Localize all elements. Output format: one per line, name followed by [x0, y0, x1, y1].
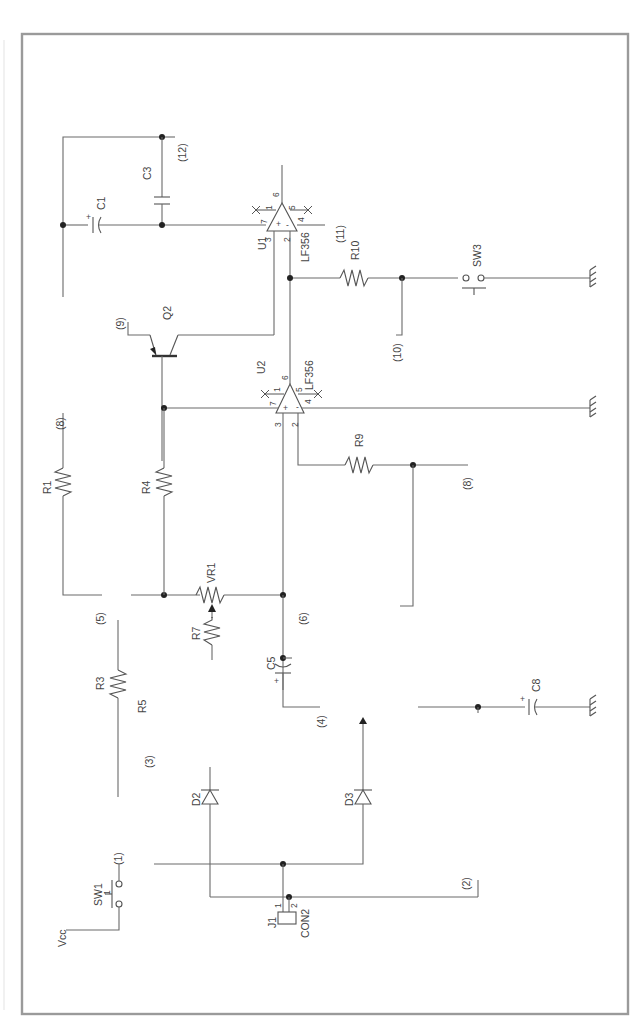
node-2-label: (2) [460, 877, 472, 890]
u2-pin7: 7 [268, 401, 278, 406]
r10-sw3-branch [287, 266, 596, 335]
u1-pin5: 5 [287, 205, 297, 210]
u1-pin7: 7 [259, 219, 269, 224]
u2-pin2: 2 [290, 422, 300, 427]
c1-polarity: + [86, 212, 91, 222]
j1-pin2: 2 [289, 903, 299, 908]
node-8-label: (8) [54, 417, 66, 430]
u1-minus: - [286, 220, 289, 230]
c8-polarity: + [520, 694, 525, 704]
r3-label: R3 [94, 676, 106, 690]
op-amp-u2 [161, 375, 596, 595]
q2-label: Q2 [161, 306, 173, 320]
u1-pin6: 6 [271, 192, 281, 197]
u2-ref: U2 [255, 360, 267, 374]
j1-part: CON2 [299, 909, 311, 938]
r5-label: R5 [136, 699, 148, 713]
connector-j1 [210, 864, 478, 924]
u1-plus: + [276, 219, 281, 229]
node-4-label: (4) [315, 715, 327, 728]
d2-label: D2 [190, 792, 202, 806]
u1-pin4: 4 [296, 217, 306, 222]
u2-pin3: 3 [273, 422, 283, 427]
u2-pin6: 6 [280, 375, 290, 380]
sw3-label: SW3 [471, 244, 483, 267]
node-7-label: (8) [461, 477, 473, 490]
c5-polarity: + [274, 676, 279, 686]
c8-label: C8 [530, 678, 542, 692]
r4-label: R4 [140, 480, 152, 494]
diode-d3 [154, 717, 372, 867]
r7-label: R7 [190, 626, 202, 640]
vr1-label: VR1 [205, 562, 217, 583]
node-10-label: (10) [391, 343, 403, 362]
r1-label: R1 [41, 480, 53, 494]
u2-pin1: 1 [272, 387, 282, 392]
u2-minus: - [296, 402, 299, 412]
r9-label: R9 [353, 433, 365, 447]
node-3-label: (3) [143, 755, 155, 768]
circuit-schematic: + C1 C3 (12) + - 6 1 5 7 4 3 2 U1 LF356 [0, 0, 643, 1036]
op-amp-u1 [252, 165, 325, 375]
capacitor-c8 [418, 695, 596, 716]
c5-label: C5 [265, 656, 277, 670]
vcc-label: Vcc [56, 929, 68, 947]
node-11-label: (11) [334, 225, 346, 243]
u1-ref: U1 [256, 236, 268, 250]
transistor-q2 [128, 322, 274, 461]
drawing-frame [22, 34, 628, 1014]
r9-branch [345, 457, 468, 606]
r3-branch [110, 620, 126, 797]
node-5-label: (5) [94, 612, 106, 625]
node-9-label: (9) [114, 317, 126, 330]
c1-c3-network: + [60, 134, 266, 297]
r10-label: R10 [349, 241, 361, 260]
u2-part: LF356 [303, 360, 315, 390]
node-1-label: (1) [112, 852, 124, 865]
u1-part: LF356 [299, 232, 311, 262]
c3-label: C3 [141, 166, 153, 180]
u1-pin2: 2 [282, 237, 292, 242]
node-6-label: (6) [297, 612, 309, 625]
u2-plus: + [283, 403, 288, 413]
capacitor-c5 [275, 664, 320, 707]
r1-r4-vr1-network [55, 408, 292, 690]
u1-pin1: 1 [264, 205, 274, 210]
j1-pin1: 1 [273, 903, 283, 908]
sw1-label: SW1 [92, 883, 104, 906]
j1-ref: J1 [266, 917, 278, 928]
c1-label: C1 [95, 196, 107, 210]
diode-d2 [201, 767, 219, 897]
d3-label: D3 [343, 792, 355, 806]
u2-pin4: 4 [303, 399, 313, 404]
node-12-label: (12) [176, 143, 188, 162]
r7-resistor [204, 617, 220, 660]
